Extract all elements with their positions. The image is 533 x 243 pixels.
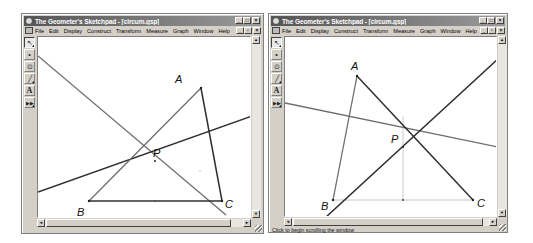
menu-bar: File Edit Display Construct Transform Me… — [24, 26, 261, 35]
menu-bar: File Edit Display Construct Transform Me… — [271, 26, 505, 35]
vertical-scrollbar[interactable]: ▲ ▼ — [498, 36, 507, 217]
custom-tool[interactable]: ▶▶ — [271, 97, 282, 108]
point-c — [472, 199, 474, 201]
menu-transform[interactable]: Transform — [116, 28, 141, 34]
stray-dot — [199, 170, 200, 171]
title-bar[interactable]: The Geometer's Sketchpad - [circum.gsp] … — [271, 16, 505, 26]
segment-ab — [89, 88, 201, 201]
perpendicular-bisector-ac — [38, 116, 251, 192]
label-c: C — [477, 197, 485, 209]
midpoint-bc — [154, 200, 156, 202]
menu-edit[interactable]: Edit — [296, 28, 306, 34]
label-b: B — [77, 206, 84, 218]
document-icon[interactable] — [272, 27, 280, 34]
circle-icon: ⊙ — [27, 63, 33, 71]
menu-help[interactable]: Help — [465, 28, 477, 34]
toolbox: ↖ • ⊙ ╱ A ▶▶ — [24, 37, 35, 109]
minimize-button[interactable]: _ — [235, 17, 243, 24]
doc-minimize-button[interactable]: _ — [480, 27, 488, 34]
menu-help[interactable]: Help — [218, 28, 230, 34]
menu-graph[interactable]: Graph — [420, 28, 436, 34]
scroll-down-button[interactable]: ▼ — [252, 210, 260, 218]
doc-close-button[interactable]: × — [253, 27, 261, 34]
construction-drawing: A B C P — [38, 37, 251, 218]
menu-measure[interactable]: Measure — [393, 28, 415, 34]
window-title: The Geometer's Sketchpad - [circum.gsp] — [282, 18, 406, 25]
window-title: The Geometer's Sketchpad - [circum.gsp] — [35, 18, 159, 25]
construction-drawing: A B C P — [285, 37, 497, 217]
label-c: C — [225, 198, 233, 210]
straightedge-tool[interactable]: ╱ — [271, 73, 282, 84]
selection-arrow-tool[interactable]: ↖ — [24, 37, 35, 48]
custom-tool[interactable]: ▶▶ — [24, 97, 35, 108]
compass-tool[interactable]: ⊙ — [24, 61, 35, 72]
minimize-button[interactable]: _ — [479, 17, 487, 24]
selection-arrow-tool[interactable]: ↖ — [271, 37, 282, 48]
menu-graph[interactable]: Graph — [173, 28, 189, 34]
sketchpad-window-left: The Geometer's Sketchpad - [circum.gsp] … — [21, 13, 264, 234]
point-p — [402, 146, 404, 148]
menu-measure[interactable]: Measure — [146, 28, 168, 34]
menu-construct[interactable]: Construct — [87, 28, 111, 34]
segment-ac — [201, 88, 222, 201]
sketchpad-window-right: The Geometer's Sketchpad - [circum.gsp] … — [268, 13, 508, 233]
text-tool[interactable]: A — [271, 85, 282, 96]
point-a — [200, 87, 202, 89]
sketch-canvas[interactable]: A B C P — [37, 36, 251, 218]
point-tool[interactable]: • — [271, 49, 282, 60]
text-icon: A — [274, 86, 280, 95]
scroll-up-button[interactable]: ▲ — [498, 36, 506, 44]
title-bar[interactable]: The Geometer's Sketchpad - [circum.gsp] … — [24, 16, 261, 26]
menu-edit[interactable]: Edit — [49, 28, 59, 34]
point-b — [332, 199, 334, 201]
point-icon: • — [275, 51, 277, 58]
toolbox: ↖ • ⊙ ╱ A ▶▶ — [271, 37, 282, 109]
maximize-button[interactable]: □ — [243, 17, 251, 24]
menu-construct[interactable]: Construct — [334, 28, 358, 34]
point-a — [356, 75, 358, 77]
document-icon[interactable] — [25, 27, 33, 34]
vertical-scrollbar[interactable]: ▲ ▼ — [252, 36, 261, 218]
perpendicular-bisector-ac — [325, 59, 497, 217]
scroll-up-button[interactable]: ▲ — [252, 36, 260, 44]
point-icon: • — [28, 51, 30, 58]
midpoint-bc — [402, 199, 404, 201]
status-bar — [24, 226, 261, 235]
line-icon: ╱ — [28, 75, 32, 83]
doc-restore-button[interactable]: ▫ — [488, 27, 496, 34]
resize-grip[interactable] — [499, 224, 506, 231]
point-p — [154, 160, 156, 162]
text-icon: A — [27, 86, 33, 95]
doc-restore-button[interactable]: ▫ — [244, 27, 252, 34]
line-icon: ╱ — [275, 75, 279, 83]
menu-display[interactable]: Display — [311, 28, 329, 34]
compass-tool[interactable]: ⊙ — [271, 61, 282, 72]
menu-file[interactable]: File — [282, 28, 291, 34]
scroll-down-button[interactable]: ▼ — [498, 209, 506, 217]
resize-grip[interactable] — [255, 225, 262, 232]
status-text: Click to begin scrolling the window — [272, 227, 354, 233]
menu-window[interactable]: Window — [441, 28, 461, 34]
straightedge-tool[interactable]: ╱ — [24, 73, 35, 84]
point-c — [221, 200, 223, 202]
segment-ab — [333, 76, 357, 200]
menu-window[interactable]: Window — [194, 28, 214, 34]
doc-minimize-button[interactable]: _ — [236, 27, 244, 34]
sketch-canvas[interactable]: A B C P — [284, 36, 497, 217]
menu-transform[interactable]: Transform — [363, 28, 388, 34]
label-a: A — [350, 60, 358, 72]
circle-icon: ⊙ — [274, 63, 280, 71]
point-b — [88, 200, 90, 202]
menu-file[interactable]: File — [35, 28, 44, 34]
label-a: A — [174, 73, 182, 85]
text-tool[interactable]: A — [24, 85, 35, 96]
point-tool[interactable]: • — [24, 49, 35, 60]
close-button[interactable]: × — [252, 17, 260, 24]
close-button[interactable]: × — [496, 17, 504, 24]
doc-close-button[interactable]: × — [497, 27, 505, 34]
app-icon[interactable] — [25, 17, 33, 25]
app-icon[interactable] — [272, 17, 280, 25]
maximize-button[interactable]: □ — [487, 17, 495, 24]
menu-display[interactable]: Display — [64, 28, 82, 34]
label-p: P — [153, 147, 161, 159]
